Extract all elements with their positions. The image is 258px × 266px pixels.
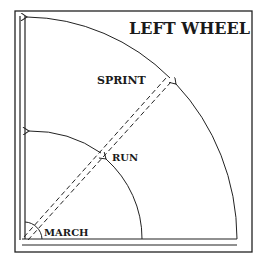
- sprint-label: SPRINT: [97, 74, 147, 87]
- march-arc: [25, 222, 42, 239]
- left-wheel-diagram: LEFT WHEEL SPRINT RUN MARCH: [0, 0, 258, 266]
- sprint-arc: [176, 84, 237, 239]
- outer-frame: [15, 11, 252, 252]
- march-label: MARCH: [44, 227, 89, 238]
- diagonal-dashed-line-2: [28, 82, 171, 240]
- inner-arc: [29, 131, 101, 153]
- run-arc: [106, 159, 142, 239]
- run-label: RUN: [112, 152, 138, 163]
- diagonal-dashed-line-1: [24, 78, 166, 237]
- diagram-title: LEFT WHEEL: [129, 19, 250, 38]
